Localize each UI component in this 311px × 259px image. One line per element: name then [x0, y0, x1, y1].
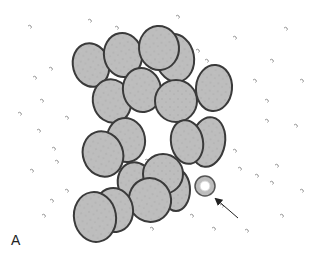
- debris-speck: [280, 214, 283, 217]
- debris-speck: [37, 129, 40, 132]
- debris-speck: [115, 26, 118, 29]
- debris-speck: [300, 189, 303, 192]
- debris-speck: [40, 99, 43, 102]
- debris-speck: [270, 181, 273, 184]
- debris-speck: [176, 15, 179, 18]
- debris-speck: [49, 67, 52, 70]
- debris-speck: [65, 116, 68, 119]
- debris-speck: [233, 36, 236, 39]
- debris-speck: [42, 214, 45, 217]
- debris-speck: [265, 119, 268, 122]
- panel-label: A: [11, 232, 20, 248]
- debris-speck: [238, 167, 241, 170]
- debris-speck: [275, 164, 278, 167]
- debris-speck: [55, 160, 58, 163]
- debris-speck: [255, 174, 258, 177]
- ring-particle: [195, 176, 215, 196]
- debris-speck: [50, 199, 53, 202]
- debris-speck: [300, 79, 303, 82]
- cells: [68, 24, 234, 245]
- cell-cluster-illustration: [0, 0, 311, 259]
- debris-speck: [253, 79, 256, 82]
- debris-speck: [284, 27, 287, 30]
- micrograph-figure: A: [0, 0, 311, 259]
- debris-speck: [205, 59, 208, 62]
- cell: [194, 64, 234, 113]
- debris-speck: [33, 76, 36, 79]
- debris-speck: [28, 25, 31, 28]
- debris-speck: [245, 229, 248, 232]
- debris-speck: [233, 149, 236, 152]
- debris-speck: [65, 189, 68, 192]
- debris-speck: [270, 59, 273, 62]
- debris-speck: [212, 227, 215, 230]
- debris-speck: [190, 214, 193, 217]
- debris-speck: [196, 49, 199, 52]
- debris-speck: [52, 147, 55, 150]
- debris-speck: [30, 169, 33, 172]
- debris-speck: [150, 227, 153, 230]
- debris-speck: [88, 19, 91, 22]
- debris-speck: [294, 124, 297, 127]
- cell: [155, 80, 197, 122]
- debris-speck: [18, 112, 21, 115]
- debris-speck: [265, 99, 268, 102]
- arrow-icon: [216, 199, 238, 218]
